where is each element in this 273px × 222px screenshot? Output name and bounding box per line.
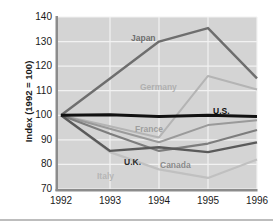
x-tick-label: 1995 [188, 195, 228, 206]
x-tick-label: 1996 [237, 195, 273, 206]
series-label-france: France [135, 125, 163, 134]
series-label-canada: Canada [160, 161, 191, 170]
line-chart: Index (1992 = 100) 140130120110100908070… [0, 0, 273, 222]
series-label-germany: Germany [140, 83, 177, 92]
x-tick-label: 1992 [41, 195, 81, 206]
x-tick-label: 1994 [139, 195, 179, 206]
x-tick-label: 1993 [90, 195, 130, 206]
series-label-uk: U.K. [124, 158, 141, 167]
series-label-us: U.S. [213, 107, 230, 116]
series-label-italy: Italy [97, 172, 114, 181]
bottom-divider [0, 219, 273, 221]
series-label-japan: Japan [131, 34, 156, 43]
